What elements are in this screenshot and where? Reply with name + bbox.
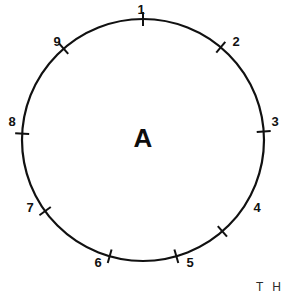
figure-root: 123456789 A T H xyxy=(0,0,284,295)
circle-diagram: 123456789 A xyxy=(0,0,284,295)
tick-mark-7 xyxy=(39,207,50,215)
tick-mark-3 xyxy=(257,131,271,132)
page-edge-text: T H xyxy=(256,281,284,293)
center-label: A xyxy=(134,123,153,153)
tick-label-1: 1 xyxy=(137,2,144,17)
tick-label-8: 8 xyxy=(8,114,15,129)
tick-label-5: 5 xyxy=(186,255,193,270)
tick-mark-8 xyxy=(15,133,29,134)
tick-label-7: 7 xyxy=(26,200,33,215)
tick-label-6: 6 xyxy=(94,255,101,270)
tick-label-2: 2 xyxy=(232,34,239,49)
tick-label-3: 3 xyxy=(271,114,278,129)
tick-label-4: 4 xyxy=(253,200,261,215)
tick-label-9: 9 xyxy=(53,34,60,49)
